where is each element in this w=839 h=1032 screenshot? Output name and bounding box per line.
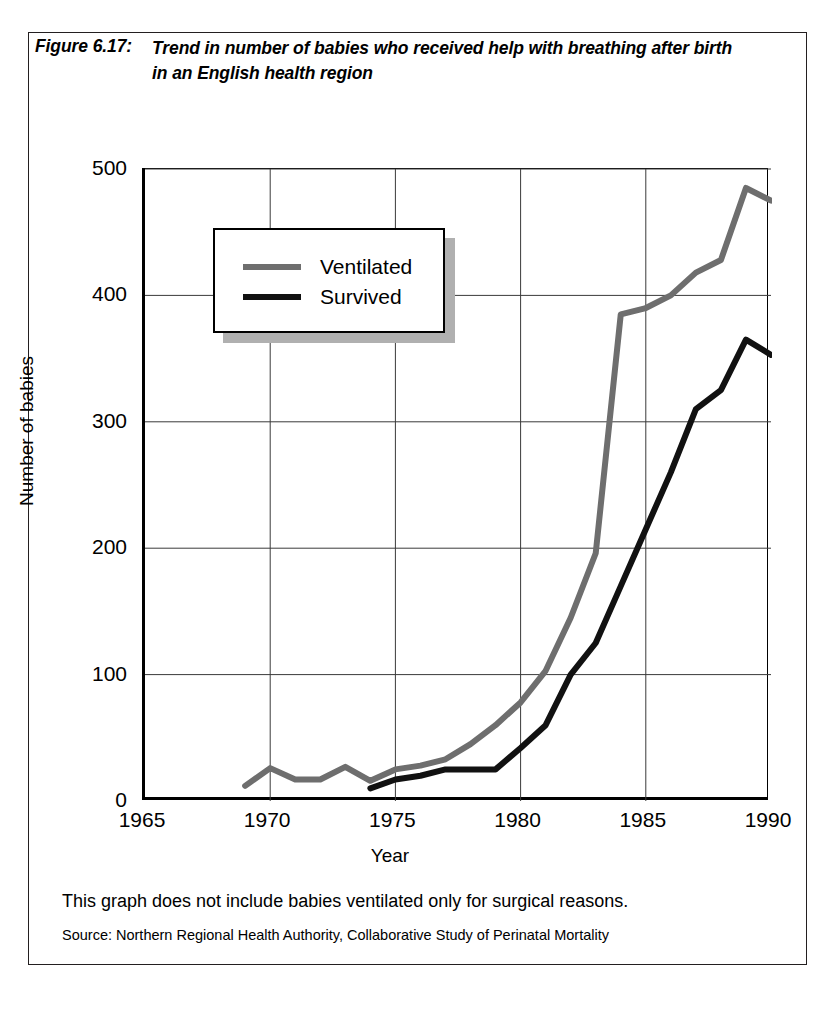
x-axis-label: Year: [0, 845, 780, 867]
legend-item-ventilated[interactable]: Ventilated: [243, 252, 443, 282]
x-tick-1965: 1965: [119, 808, 166, 832]
legend-label: Survived: [320, 285, 402, 309]
figure-caption: Trend in number of babies who received h…: [152, 36, 735, 86]
x-tick-1970: 1970: [244, 808, 291, 832]
y-tick-100: 100: [92, 662, 127, 686]
legend-swatch-survived: [243, 294, 301, 300]
y-axis-label: Number of babies: [16, 301, 38, 561]
figure-title-block: Figure 6.17: Trend in number of babies w…: [35, 36, 735, 86]
series-line-survived: [370, 340, 771, 789]
chart-legend: VentilatedSurvived: [213, 228, 445, 333]
x-tick-1980: 1980: [494, 808, 541, 832]
figure-source: Source: Northern Regional Health Authori…: [62, 927, 609, 943]
y-tick-400: 400: [92, 282, 127, 306]
x-axis-tick-labels: 196519701975198019851990: [0, 808, 839, 838]
legend-item-survived[interactable]: Survived: [243, 282, 443, 312]
x-tick-1985: 1985: [619, 808, 666, 832]
y-axis-tick-labels: 0100200300400500: [75, 168, 127, 800]
y-tick-500: 500: [92, 156, 127, 180]
x-tick-1975: 1975: [369, 808, 416, 832]
y-tick-200: 200: [92, 535, 127, 559]
legend-label: Ventilated: [320, 255, 412, 279]
y-tick-300: 300: [92, 409, 127, 433]
legend-swatch-ventilated: [243, 264, 301, 270]
figure-note: This graph does not include babies venti…: [62, 891, 628, 912]
figure-number: Figure 6.17:: [35, 36, 132, 57]
x-tick-1990: 1990: [745, 808, 792, 832]
